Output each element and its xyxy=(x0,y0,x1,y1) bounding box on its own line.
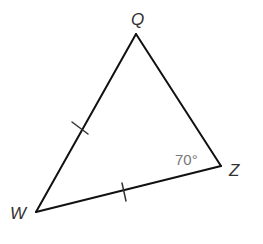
vertex-label-Z: Z xyxy=(228,161,240,180)
triangle-QZW xyxy=(36,34,221,212)
angle-label-Z: 70° xyxy=(175,151,198,168)
side-QZ xyxy=(136,34,221,166)
side-ZW xyxy=(36,166,221,212)
tick-mark-side-WZ xyxy=(122,183,126,201)
vertex-label-W: W xyxy=(10,204,28,223)
triangle-diagram: Q Z W 70° xyxy=(0,0,263,244)
vertex-label-Q: Q xyxy=(131,10,144,29)
side-WQ xyxy=(36,34,136,212)
